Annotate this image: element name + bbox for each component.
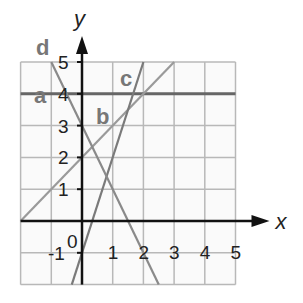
x-tick-label: 5 [231,242,242,263]
y-tick-label: 5 [58,52,69,73]
y-tick-label: 3 [58,116,69,137]
x-axis-arrow-icon [252,215,270,227]
y-tick-label: 4 [58,84,69,105]
x-tick-label: 1 [108,242,119,263]
x-tick-label: 4 [200,242,211,263]
series-label-c: c [120,66,132,91]
series-label-a: a [34,83,47,108]
x-axis-label: x [275,209,288,234]
y-axis-arrow-icon [76,36,88,54]
x-tick-label: 3 [169,242,180,263]
origin-label: 0 [67,231,78,252]
coordinate-plane: xy12345-1123450abcd [0,0,303,303]
y-tick-label: -1 [48,243,65,264]
y-axis-label: y [72,6,87,31]
y-tick-label: 2 [58,147,69,168]
series-label-d: d [36,35,49,60]
series-label-b: b [96,104,109,129]
y-tick-label: 1 [58,179,69,200]
x-tick-label: 2 [138,242,149,263]
